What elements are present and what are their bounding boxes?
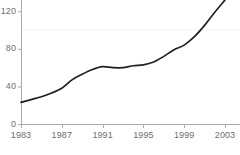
x-axis-tick-label: 1991: [89, 131, 117, 140]
series-path: [21, 0, 225, 102]
x-axis-tick-label: 1999: [170, 131, 198, 140]
x-axis-tick-label: 1983: [7, 131, 35, 140]
x-axis-tick-label: 2003: [211, 131, 239, 140]
y-axis-tick-label: 40: [6, 82, 16, 91]
y-axis-tick-label: 80: [6, 44, 16, 53]
y-axis-tick-label: 0: [11, 120, 16, 129]
data-series-line: [21, 0, 225, 102]
y-axis-tick-label: 120: [1, 7, 16, 16]
x-axis-tick-label: 1995: [129, 131, 157, 140]
y-axis-ticks: [18, 12, 21, 125]
line-chart: 04080120 198319871991199519992003: [0, 0, 240, 155]
chart-plot-area: [0, 0, 240, 155]
x-axis-tick-label: 1987: [48, 131, 76, 140]
